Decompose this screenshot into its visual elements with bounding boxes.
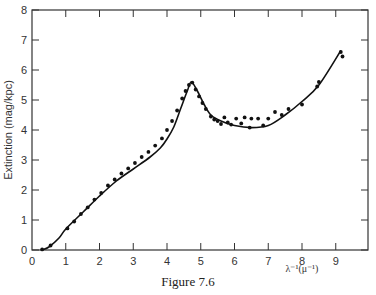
fit-curve bbox=[42, 51, 341, 251]
data-point bbox=[120, 172, 124, 176]
data-point bbox=[222, 116, 226, 120]
data-point bbox=[79, 212, 83, 216]
data-point bbox=[209, 115, 213, 119]
x-tick-label: 3 bbox=[130, 255, 136, 267]
data-point bbox=[40, 248, 44, 252]
data-point bbox=[273, 110, 277, 114]
data-point bbox=[300, 103, 304, 107]
data-point bbox=[113, 178, 117, 182]
data-point bbox=[234, 117, 238, 121]
y-tick-label: 3 bbox=[21, 154, 27, 166]
y-tick-label: 7 bbox=[21, 34, 27, 46]
y-tick-label: 0 bbox=[21, 244, 27, 256]
data-point bbox=[66, 227, 70, 231]
x-tick-label: 5 bbox=[198, 255, 204, 267]
y-axis-ticks: 012345678 bbox=[21, 4, 368, 256]
data-point bbox=[197, 95, 201, 99]
data-point bbox=[187, 83, 191, 87]
data-point bbox=[175, 109, 179, 113]
x-tick-label: 9 bbox=[333, 255, 339, 267]
data-point bbox=[212, 118, 216, 122]
data-point bbox=[133, 161, 137, 165]
data-point bbox=[147, 150, 151, 154]
data-point bbox=[153, 144, 157, 148]
data-point bbox=[194, 88, 198, 92]
x-tick-label: 2 bbox=[96, 255, 102, 267]
data-point bbox=[86, 206, 90, 210]
data-point bbox=[106, 184, 110, 188]
data-point bbox=[317, 80, 321, 84]
data-point bbox=[248, 126, 252, 130]
data-point bbox=[190, 81, 194, 85]
data-point bbox=[249, 117, 253, 121]
data-point bbox=[201, 101, 205, 105]
data-point bbox=[165, 128, 169, 132]
data-point bbox=[140, 155, 144, 159]
y-tick-label: 6 bbox=[21, 64, 27, 76]
y-tick-label: 5 bbox=[21, 94, 27, 106]
x-tick-label: 6 bbox=[231, 255, 237, 267]
data-point bbox=[216, 119, 220, 123]
data-series bbox=[40, 50, 344, 251]
data-point bbox=[226, 121, 230, 125]
data-point bbox=[219, 122, 223, 126]
data-point bbox=[93, 198, 97, 202]
data-point bbox=[126, 167, 130, 171]
data-point bbox=[160, 137, 164, 141]
data-point bbox=[341, 55, 345, 59]
figure-caption: Figure 7.6 bbox=[0, 274, 376, 290]
y-tick-label: 8 bbox=[21, 4, 27, 16]
extinction-chart: 012345678 0123456789 Extinction (mag/kpc… bbox=[0, 0, 376, 275]
y-axis-title: Extinction (mag/kpc) bbox=[2, 80, 14, 180]
x-tick-label: 1 bbox=[63, 255, 69, 267]
data-point bbox=[170, 119, 174, 123]
data-point bbox=[315, 85, 319, 89]
data-point bbox=[261, 124, 265, 128]
data-point bbox=[256, 117, 260, 121]
data-point bbox=[49, 244, 53, 248]
data-point bbox=[239, 122, 243, 126]
data-point bbox=[204, 107, 208, 111]
data-point bbox=[180, 97, 184, 101]
y-tick-label: 2 bbox=[21, 184, 27, 196]
data-point bbox=[339, 50, 343, 54]
y-tick-label: 1 bbox=[21, 214, 27, 226]
x-tick-label: 7 bbox=[265, 255, 271, 267]
data-point bbox=[72, 220, 76, 224]
x-tick-label: 4 bbox=[164, 255, 170, 267]
x-tick-label: 0 bbox=[29, 255, 35, 267]
x-axis-ticks: 0123456789 bbox=[29, 10, 339, 267]
data-point bbox=[280, 113, 284, 117]
data-point bbox=[229, 123, 233, 127]
data-point bbox=[184, 89, 188, 93]
data-point bbox=[287, 107, 291, 111]
data-point bbox=[99, 191, 103, 195]
y-tick-label: 4 bbox=[21, 124, 27, 136]
data-point bbox=[243, 116, 247, 120]
data-point bbox=[266, 117, 270, 121]
